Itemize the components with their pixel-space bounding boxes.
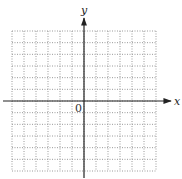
coordinate-plane: x y 0 <box>0 0 182 179</box>
origin-label: 0 <box>75 102 82 115</box>
y-axis-label: y <box>80 4 88 17</box>
x-axis-label: x <box>174 95 181 108</box>
